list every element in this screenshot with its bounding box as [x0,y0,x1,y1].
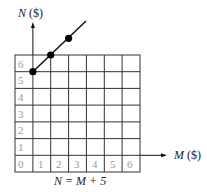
x-axis [140,153,167,157]
data-point [29,68,36,75]
row-label: 5 [18,74,24,86]
y-axis-var: N [18,6,26,20]
y-axis-unit: ($) [29,6,43,20]
row-label: 1 [18,141,24,153]
col-label: 6 [127,158,133,170]
row-label: 4 [18,91,24,103]
x-axis-label: M ($) [174,148,201,163]
row-label: 3 [18,108,24,120]
col-label: 1 [38,158,44,170]
x-axis-var: M [174,148,184,162]
col-label: 4 [92,158,98,170]
row-label: 2 [18,124,24,136]
y-axis [31,22,35,55]
col-label: 2 [56,158,62,170]
x-axis-unit: ($) [187,148,201,162]
col-label: 3 [74,158,80,170]
data-point [65,35,72,42]
col-label: 5 [110,158,116,170]
data-point [47,51,54,58]
row-label: 0 [18,158,24,170]
arrow-right-icon [161,153,167,157]
row-label: 6 [18,58,24,70]
graph [0,0,207,192]
equation-label: N = M + 5 [54,174,106,189]
data-line [29,21,86,75]
arrow-up-icon [31,22,35,28]
y-axis-label: N ($) [18,6,43,21]
